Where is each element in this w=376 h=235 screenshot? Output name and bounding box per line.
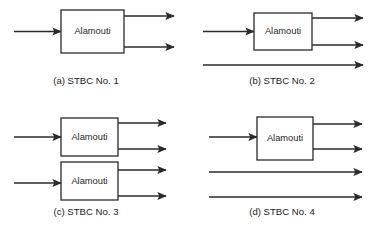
alamouti-block-label: Alamouti xyxy=(71,132,107,142)
figure-canvas: Alamouti(a) STBC No. 1Alamouti(b) STBC N… xyxy=(0,0,376,235)
alamouti-block-label: Alamouti xyxy=(267,133,303,143)
panel-d: Alamouti(d) STBC No. 4 xyxy=(209,117,362,217)
panel-c: AlamoutiAlamouti(c) STBC No. 3 xyxy=(14,118,166,217)
alamouti-block-label: Alamouti xyxy=(71,176,107,186)
panel-a: Alamouti(a) STBC No. 1 xyxy=(14,10,174,86)
panel-b: Alamouti(b) STBC No. 2 xyxy=(203,13,363,86)
panel-caption-a: (a) STBC No. 1 xyxy=(53,75,119,86)
panels-layer: Alamouti(a) STBC No. 1Alamouti(b) STBC N… xyxy=(14,10,363,217)
alamouti-block-label: Alamouti xyxy=(265,26,301,36)
panel-caption-d: (d) STBC No. 4 xyxy=(249,206,315,217)
panel-caption-b: (b) STBC No. 2 xyxy=(249,75,315,86)
alamouti-block-label: Alamouti xyxy=(74,26,110,36)
stbc-configurations-figure: Alamouti(a) STBC No. 1Alamouti(b) STBC N… xyxy=(0,0,376,235)
panel-caption-c: (c) STBC No. 3 xyxy=(53,206,118,217)
